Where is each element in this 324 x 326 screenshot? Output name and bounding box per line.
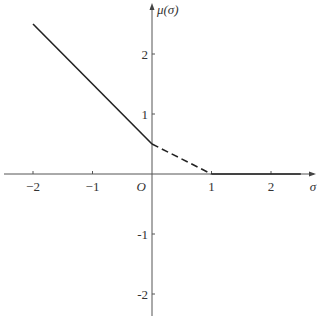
x-axis-arrow-icon — [309, 172, 316, 177]
x-tick-label: 1 — [208, 179, 215, 194]
series-group — [33, 24, 301, 174]
y-tick-label: 2 — [142, 47, 149, 62]
series-solid-left — [33, 24, 152, 144]
y-tick-label: -2 — [137, 287, 148, 302]
labels-group: −2−11221-1-2Oσμ(σ) — [26, 2, 317, 302]
chart: −2−11221-1-2Oσμ(σ) — [0, 0, 324, 326]
y-tick-label: -1 — [137, 227, 148, 242]
origin-label: O — [137, 179, 147, 194]
y-tick-label: 1 — [142, 107, 149, 122]
y-axis-label: μ(σ) — [156, 2, 179, 17]
x-axis-label: σ — [310, 179, 317, 194]
axes — [4, 3, 316, 316]
series-dashed-middle — [152, 144, 212, 174]
y-axis-arrow-icon — [150, 3, 155, 10]
x-tick-label: −1 — [86, 179, 100, 194]
x-tick-label: 2 — [268, 179, 275, 194]
x-tick-label: −2 — [26, 179, 40, 194]
